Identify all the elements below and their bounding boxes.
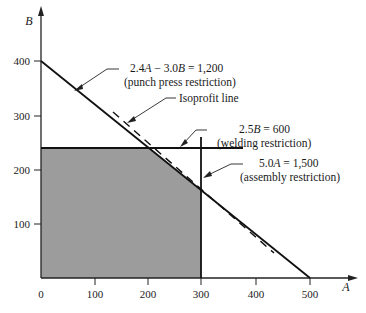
punch-press-arrow-icon (74, 84, 83, 91)
x-tick-label-300: 300 (193, 288, 210, 300)
isoprofit-arrow-icon (127, 116, 136, 123)
linear-programming-chart: 100 200 300 400 0 100 200 300 400 500 B … (0, 0, 366, 313)
x-tick-label-0: 0 (38, 288, 44, 300)
x-tick-label-100: 100 (87, 288, 104, 300)
assembly-equation: 5.0A = 1,500 (259, 157, 319, 170)
assembly-description: (assembly restriction) (240, 171, 340, 184)
y-axis-title: B (25, 14, 33, 28)
y-tick-label-200: 200 (14, 164, 31, 176)
assembly-leader (206, 164, 243, 176)
y-tick-label-300: 300 (14, 110, 31, 122)
assembly-arrow-icon (203, 171, 212, 178)
y-ticks (34, 61, 41, 224)
welding-description: (welding restriction) (217, 137, 311, 150)
punch-press-description: (punch press restriction) (124, 76, 236, 89)
welding-equation: 2.5B = 600 (239, 123, 290, 135)
isoprofit-label: Isoprofit line (179, 92, 239, 105)
x-tick-label-200: 200 (140, 288, 157, 300)
x-ticks (95, 278, 310, 285)
punch-press-leader (77, 69, 119, 89)
y-tick-label-400: 400 (14, 55, 31, 67)
y-axis-arrow-icon (38, 6, 44, 16)
y-tick-label-100: 100 (14, 218, 31, 230)
x-tick-label-500: 500 (302, 288, 319, 300)
punch-press-equation: 2.4A − 3.0B = 1,200 (130, 62, 223, 75)
x-tick-label-400: 400 (248, 288, 265, 300)
isoprofit-leader (130, 98, 176, 121)
x-axis-title: A (341, 280, 350, 294)
